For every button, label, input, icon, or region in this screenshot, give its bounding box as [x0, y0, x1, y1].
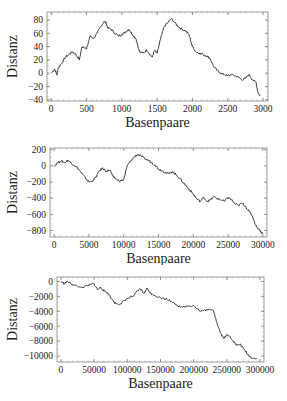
x-tick-label: 25000 — [216, 240, 240, 250]
y-tick-label: −40 — [28, 95, 43, 105]
x-tick-label: 0 — [52, 240, 57, 250]
line-chart-30000bp: 050001000015000200002500030000−800−600−4… — [0, 130, 287, 265]
plot-frame — [57, 277, 264, 362]
y-tick-label: −4000 — [29, 307, 54, 317]
x-axis-title: Basenpaare — [125, 115, 190, 130]
x-tick-label: 1500 — [148, 104, 167, 114]
y-tick-label: −10000 — [24, 351, 53, 361]
x-tick-label: 50000 — [82, 365, 106, 375]
x-tick-label: 3000 — [254, 104, 273, 114]
y-tick-label: 0 — [48, 277, 53, 287]
x-tick-label: 300000 — [246, 365, 275, 375]
plot-frame — [50, 148, 267, 237]
y-tick-label: −400 — [26, 193, 46, 203]
y-tick-label: −8000 — [29, 336, 54, 346]
x-tick-label: 20000 — [181, 240, 205, 250]
data-series-line — [61, 281, 257, 359]
chart-panel-30000bp: 050001000015000200002500030000−800−600−4… — [0, 130, 287, 265]
y-axis-title: Distanz — [5, 35, 20, 78]
x-tick-label: 2000 — [183, 104, 202, 114]
x-tick-label: 2500 — [218, 104, 237, 114]
x-tick-label: 100000 — [113, 365, 142, 375]
x-tick-label: 0 — [59, 365, 64, 375]
x-tick-label: 500 — [79, 104, 94, 114]
x-tick-label: 0 — [49, 104, 54, 114]
chart-panel-300000bp: 050000100000150000200000250000300000−100… — [0, 265, 287, 401]
line-chart-300000bp: 050000100000150000200000250000300000−100… — [0, 265, 287, 401]
y-axis-title: Distanz — [5, 171, 20, 214]
y-tick-label: −600 — [26, 210, 46, 220]
data-series-line — [51, 18, 260, 95]
data-series-line — [54, 154, 263, 233]
y-tick-label: 0 — [41, 161, 46, 171]
x-tick-label: 15000 — [147, 240, 171, 250]
y-tick-label: 60 — [34, 29, 44, 39]
x-tick-label: 250000 — [213, 365, 242, 375]
line-chart-3000bp: 050010001500200025003000−40−20020406080B… — [0, 0, 287, 130]
x-tick-label: 1000 — [112, 104, 131, 114]
y-tick-label: −200 — [26, 177, 46, 187]
y-tick-label: 20 — [34, 55, 44, 65]
y-tick-label: 80 — [34, 15, 44, 25]
x-axis-title: Basenpaare — [128, 376, 193, 391]
x-tick-label: 200000 — [179, 365, 208, 375]
y-tick-label: −2000 — [29, 292, 54, 302]
y-tick-label: −800 — [26, 226, 46, 236]
x-tick-label: 150000 — [146, 365, 175, 375]
y-tick-label: 200 — [32, 145, 47, 155]
y-axis-title: Distanz — [5, 298, 20, 341]
y-tick-label: −20 — [28, 82, 43, 92]
x-tick-label: 5000 — [79, 240, 98, 250]
y-tick-label: 0 — [38, 68, 43, 78]
chart-panel-3000bp: 050010001500200025003000−40−20020406080B… — [0, 0, 287, 130]
y-tick-label: 40 — [34, 42, 44, 52]
x-axis-title: Basenpaare — [126, 251, 191, 265]
x-tick-label: 10000 — [112, 240, 136, 250]
y-tick-label: −6000 — [29, 322, 54, 332]
x-tick-label: 30000 — [251, 240, 275, 250]
